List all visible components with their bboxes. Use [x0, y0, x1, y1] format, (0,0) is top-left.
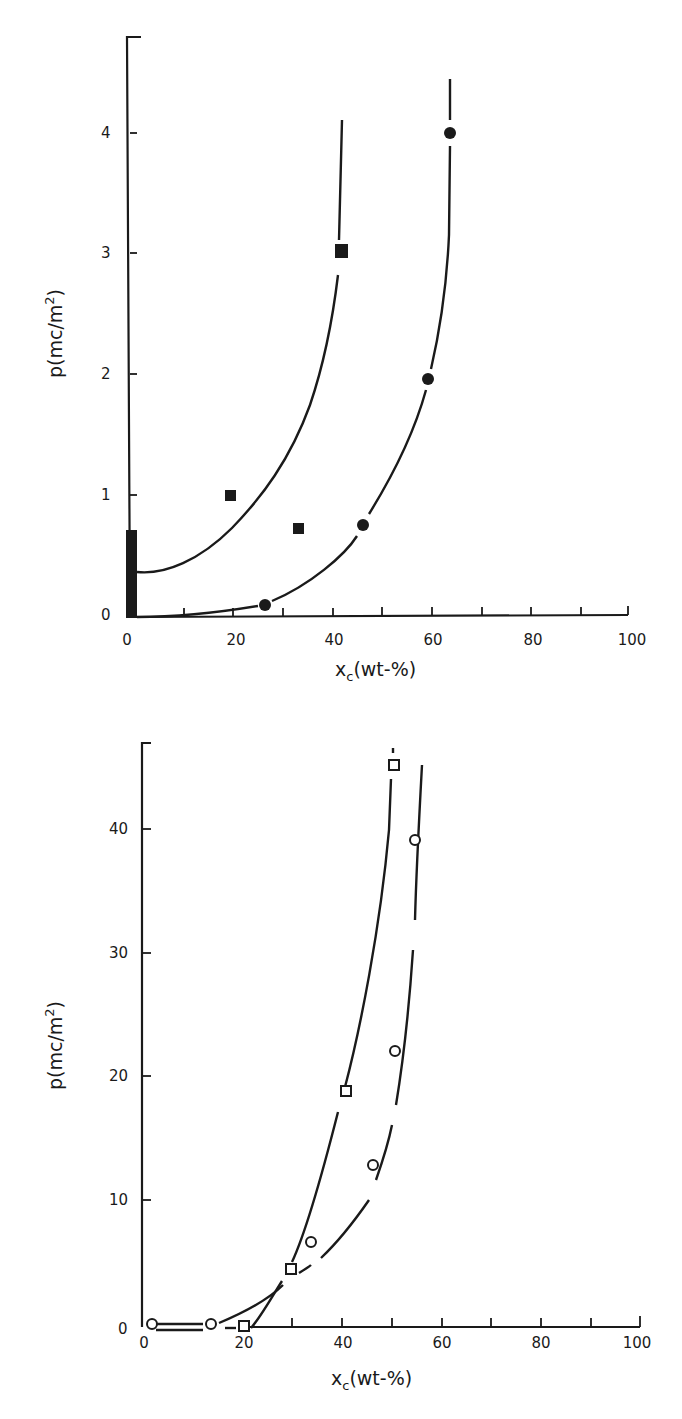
bottom-marker-open-circle: [410, 835, 420, 845]
top-marker-circle: [357, 519, 369, 531]
top-marker-square: [293, 523, 304, 534]
bottom-chart: 0 10 20 30 40 0 20 40 60 80 100 xc(wt-%)…: [42, 743, 651, 1393]
bottom-x-tick-60: 60: [432, 1334, 451, 1352]
top-marker-circle: [259, 599, 271, 611]
bottom-curve-circles: [156, 765, 422, 1330]
bottom-x-ticks: [292, 1316, 640, 1327]
top-x-tick-20: 20: [226, 631, 245, 649]
bottom-y-ticks: [142, 829, 151, 1200]
top-y-tick-3: 3: [101, 244, 111, 262]
bottom-y-tick-10: 10: [109, 1191, 128, 1209]
bottom-y-tick-0: 0: [118, 1320, 128, 1338]
top-chart: 0 1 2 3 4 0 20 40 60 80 100 xc(wt-%) p(m…: [42, 37, 646, 684]
top-marker-circle: [444, 127, 456, 139]
bottom-marker-open-square: [286, 1264, 296, 1274]
bottom-marker-open-circle: [206, 1319, 216, 1329]
top-y-tick-1: 1: [101, 486, 111, 504]
top-y-tick-2: 2: [101, 365, 111, 383]
bottom-marker-open-square: [341, 1086, 351, 1096]
top-y-axis-title: p(mc/m2): [42, 289, 66, 378]
bottom-x-tick-100: 100: [623, 1334, 652, 1352]
top-bar-at-zero: [126, 530, 137, 618]
bottom-x-tick-0: 0: [139, 1334, 149, 1352]
bottom-marker-open-circle: [368, 1160, 378, 1170]
top-x-axis-title: xc(wt-%): [335, 658, 416, 684]
bottom-x-tick-80: 80: [531, 1334, 550, 1352]
top-x-tick-0: 0: [122, 631, 132, 649]
bottom-y-tick-20: 20: [109, 1067, 128, 1085]
bottom-y-axis-title: p(mc/m2): [42, 1001, 66, 1090]
bottom-curve-squares: [251, 748, 393, 1328]
bottom-y-tick-40: 40: [109, 820, 128, 838]
top-x-tick-80: 80: [523, 631, 542, 649]
bottom-y-tick-30: 30: [109, 944, 128, 962]
top-x-tick-100: 100: [618, 631, 647, 649]
figure: 0 1 2 3 4 0 20 40 60 80 100 xc(wt-%) p(m…: [0, 0, 682, 1419]
top-curve-squares: [137, 120, 342, 572]
top-marker-square: [225, 490, 236, 501]
top-y-tick-4: 4: [101, 124, 111, 142]
top-x-tick-40: 40: [324, 631, 343, 649]
top-marker-circle: [422, 373, 434, 385]
bottom-x-axis-title: xc(wt-%): [331, 1367, 412, 1393]
top-curve-circles: [137, 79, 450, 617]
bottom-marker-open-circle: [390, 1046, 400, 1056]
bottom-x-tick-20: 20: [234, 1334, 253, 1352]
top-y-tick-0: 0: [101, 606, 111, 624]
top-marker-square: [335, 244, 348, 258]
bottom-y-axis: [142, 743, 151, 1327]
top-y-ticks: [130, 133, 137, 495]
bottom-x-tick-40: 40: [333, 1334, 352, 1352]
bottom-marker-open-square: [389, 760, 399, 770]
bottom-marker-open-square: [239, 1321, 249, 1331]
bottom-marker-open-circle: [306, 1237, 316, 1247]
top-x-tick-60: 60: [423, 631, 442, 649]
top-x-axis: [130, 615, 628, 617]
bottom-marker-open-circle: [147, 1319, 157, 1329]
